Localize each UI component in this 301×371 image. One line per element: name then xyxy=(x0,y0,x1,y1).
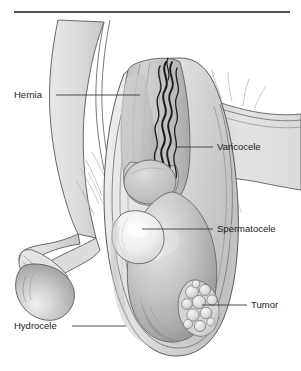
label-tumor: Tumor xyxy=(251,299,278,310)
illustration-canvas: Hernia Varicocele Spermatocele Tumor Hyd… xyxy=(0,0,301,371)
label-hydrocele: Hydrocele xyxy=(14,320,57,331)
epididymal-cyst xyxy=(112,211,164,264)
label-varicocele: Varicocele xyxy=(217,141,261,152)
anatomical-illustration: Hernia Varicocele Spermatocele Tumor Hyd… xyxy=(0,0,301,371)
label-hernia: Hernia xyxy=(14,89,43,100)
label-spermatocele: Spermatocele xyxy=(217,223,276,234)
